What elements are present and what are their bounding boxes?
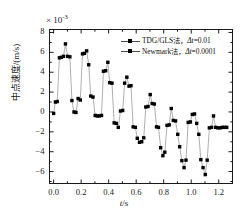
data-point-marker <box>115 122 118 125</box>
y-tick-label: 2 <box>23 86 45 96</box>
y-tick-label: −4 <box>23 146 45 156</box>
data-point-marker <box>56 100 59 103</box>
velocity-chart-figure: × 10-3 中点速度/(m/s) t/s 86420−2−4−6 0.00.2… <box>0 0 248 216</box>
data-point-marker <box>106 61 109 64</box>
legend-circle-marker-icon <box>128 49 132 53</box>
data-point-marker <box>153 102 156 105</box>
data-point-marker <box>117 126 120 129</box>
x-tick-label: 0.8 <box>151 187 177 197</box>
data-point-marker <box>182 166 185 169</box>
data-point-marker <box>195 122 198 125</box>
data-point-marker <box>189 120 192 123</box>
data-point-marker <box>205 158 208 161</box>
x-tick-label: 1.2 <box>206 187 232 197</box>
data-point-marker <box>193 112 196 115</box>
data-point-marker <box>168 123 171 126</box>
series-line-path <box>54 44 227 175</box>
data-point-marker <box>180 159 183 162</box>
data-point-marker <box>142 136 145 139</box>
data-point-marker <box>184 158 187 161</box>
x-axis-title: t/s <box>0 198 248 208</box>
data-point-marker <box>178 145 181 148</box>
data-point-marker <box>146 105 149 108</box>
x-tick-label: 0.4 <box>96 187 122 197</box>
data-point-marker <box>140 140 143 143</box>
y-axis-exponent-label: × 10-3 <box>46 13 68 25</box>
series-tdg-gls-line <box>54 44 227 175</box>
series-newmark-markers <box>52 42 228 176</box>
data-point-marker <box>159 146 162 149</box>
data-point-marker <box>176 133 179 136</box>
legend-swatch-tdg-gls <box>121 37 140 46</box>
y-exponent-power: -3 <box>62 13 67 20</box>
data-point-marker <box>68 55 71 58</box>
y-axis-title: 中点速度/(m/s) <box>9 18 22 128</box>
data-point-marker <box>70 99 73 102</box>
legend-swatch-newmark <box>121 47 140 56</box>
data-point-marker <box>104 69 107 72</box>
y-tick-label: 0 <box>23 106 45 116</box>
legend-item-newmark: Newmark法，Δt=0.0001 <box>121 47 216 58</box>
legend-label-newmark: Newmark法，Δt=0.0001 <box>142 47 216 58</box>
data-point-marker <box>161 154 164 157</box>
legend-label-newmark-text: Newmark法， <box>142 47 185 56</box>
data-point-marker <box>110 81 113 84</box>
data-point-marker <box>174 119 177 122</box>
legend-square-marker-icon <box>128 39 132 43</box>
legend-label-tdg-gls-value: =0.01 <box>194 36 211 45</box>
data-point-marker <box>64 42 67 45</box>
x-tick-label: 0.0 <box>41 187 67 197</box>
data-point-marker <box>129 84 132 87</box>
data-point-marker <box>125 75 128 78</box>
data-point-marker <box>197 133 200 136</box>
data-point-marker <box>134 126 137 129</box>
legend-label-newmark-value: =0.0001 <box>192 47 217 56</box>
data-point-marker <box>85 49 88 52</box>
legend-label-tdg-gls-text: TDG/GLS法， <box>142 36 187 45</box>
data-point-marker <box>121 109 124 112</box>
chart-legend: TDG/GLS法，Δt=0.01 Newmark法，Δt=0.0001 <box>121 36 216 57</box>
data-point-marker <box>123 81 126 84</box>
data-point-marker <box>225 126 228 129</box>
data-point-marker <box>201 166 204 169</box>
data-point-marker <box>74 111 77 114</box>
x-tick-label: 0.6 <box>123 187 149 197</box>
data-point-marker <box>212 114 215 117</box>
y-tick-label: 8 <box>23 26 45 36</box>
data-point-marker <box>52 112 55 115</box>
y-tick-label: −2 <box>23 126 45 136</box>
y-tick-label: 4 <box>23 66 45 76</box>
data-point-marker <box>91 95 94 98</box>
y-exponent-base: × 10 <box>46 15 62 25</box>
x-axis-unit: /s <box>122 198 128 208</box>
legend-item-tdg-gls: TDG/GLS法，Δt=0.01 <box>121 36 216 47</box>
y-tick-label: −6 <box>23 166 45 176</box>
x-tick-label: 0.2 <box>68 187 94 197</box>
data-point-marker <box>62 55 65 58</box>
data-point-marker <box>136 137 139 140</box>
x-tick-label: 1.0 <box>178 187 204 197</box>
data-point-marker <box>79 98 82 101</box>
data-point-marker <box>87 63 90 66</box>
data-point-marker <box>149 93 152 96</box>
y-tick-label: 6 <box>23 46 45 56</box>
data-point-marker <box>210 126 213 129</box>
data-point-marker <box>204 173 207 176</box>
legend-label-tdg-gls: TDG/GLS法，Δt=0.01 <box>142 36 211 47</box>
data-point-marker <box>163 151 166 154</box>
data-point-marker <box>170 107 173 110</box>
data-point-marker <box>157 126 160 129</box>
data-point-marker <box>100 114 103 117</box>
data-point-marker <box>199 158 202 161</box>
